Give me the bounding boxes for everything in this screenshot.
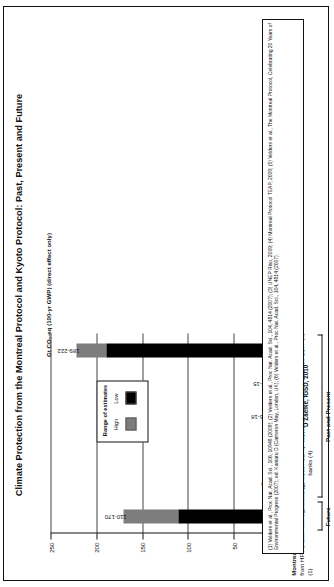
value-tick-label: 250 xyxy=(47,542,54,582)
figure-frame: Climate Protection from the Montreal Pro… xyxy=(3,6,329,581)
footnote-references: (1) Velders et al., Proc Nat. Acad. Sci.… xyxy=(262,19,304,554)
chart-title: Climate Protection from the Montreal Pro… xyxy=(12,7,24,582)
legend-title: Range of estimates xyxy=(101,379,107,441)
legend-low-label: Low xyxy=(112,390,118,406)
value-tick xyxy=(96,533,97,539)
legend-high-label: High xyxy=(112,416,118,432)
value-tick-label: 200 xyxy=(92,542,99,582)
bar-value-label: 189-222 xyxy=(57,347,79,353)
group-bracket xyxy=(317,501,322,530)
group-label: Future xyxy=(323,503,330,530)
legend: Range of estimates High Low xyxy=(96,380,148,442)
group-label: Past and Present xyxy=(323,336,330,497)
legend-low-swatch xyxy=(125,391,136,404)
bar-segment-high xyxy=(123,509,178,523)
legend-high-swatch xyxy=(125,417,136,430)
value-tick-label: 100 xyxy=(184,542,191,582)
bar-segment-low xyxy=(106,343,279,357)
value-tick xyxy=(142,533,143,539)
value-tick xyxy=(187,533,188,539)
bar xyxy=(76,343,279,357)
value-tick xyxy=(50,533,51,539)
plot-area xyxy=(50,333,279,533)
value-tick xyxy=(233,533,234,539)
bar-value-label: 110-170 xyxy=(105,513,127,519)
bar-segment-high xyxy=(76,343,106,357)
value-tick-label: 50 xyxy=(230,542,237,582)
group-bracket xyxy=(317,334,322,497)
value-tick-label: 150 xyxy=(138,542,145,582)
credit-attribution: D Zaelke, IGSD, 2010 xyxy=(302,365,309,427)
bar xyxy=(123,509,279,523)
